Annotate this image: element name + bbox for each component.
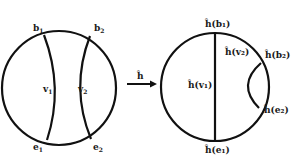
right-disk: ĥ(b₁) ĥ(b₂) ĥ(v₁) ĥ(v₂) ĥ(e₁) ĥ(e₂) — [161, 18, 290, 155]
label-v1: v1 — [42, 84, 52, 95]
label-v2: v2 — [77, 84, 87, 95]
left-boundary-circle — [2, 31, 116, 145]
label-he1: ĥ(e₁) — [204, 144, 230, 155]
arrow-head-icon — [150, 81, 157, 88]
label-e2: e2 — [93, 142, 103, 153]
label-b1: b1 — [33, 23, 43, 34]
label-hb2: ĥ(b₂) — [264, 49, 290, 60]
map-arrow: ĥ — [127, 70, 157, 88]
label-hv1: ĥ(v₁) — [187, 79, 212, 90]
label-h-map: ĥ — [136, 70, 144, 81]
right-arc-hv2 — [248, 63, 261, 108]
label-he2: ĥ(e₂) — [263, 104, 289, 115]
left-disk: b1 b2 v1 v2 e1 e2 — [2, 23, 116, 153]
label-hb1: ĥ(b₁) — [204, 18, 230, 29]
label-hv2: ĥ(v₂) — [224, 46, 249, 57]
diagram-canvas: b1 b2 v1 v2 e1 e2 ĥ ĥ(b₁) ĥ(b₂) ĥ(v₁) ĥ(… — [0, 0, 306, 166]
label-e1: e1 — [33, 142, 43, 153]
label-b2: b2 — [94, 23, 104, 34]
